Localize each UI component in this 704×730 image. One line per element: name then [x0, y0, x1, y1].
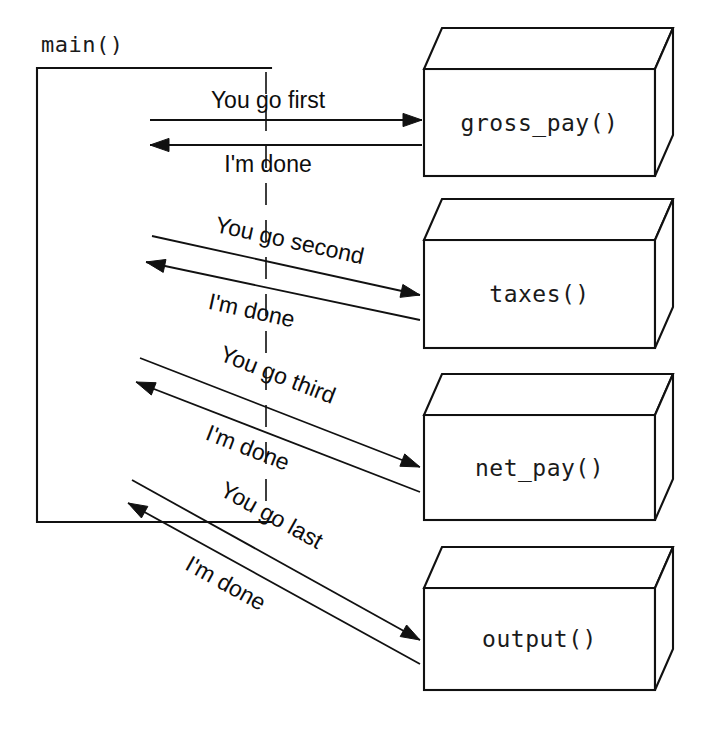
message-im-done-1[interactable]	[150, 138, 422, 151]
message-im-done-1-arrow-head-icon	[150, 138, 169, 151]
message-im-done-3[interactable]	[136, 382, 420, 492]
message-arrow-group	[128, 113, 422, 664]
box-net-pay[interactable]	[424, 374, 673, 520]
box-net-pay-top-face	[424, 374, 673, 415]
box-output-top-face	[424, 547, 673, 588]
box-taxes-label: taxes()	[489, 281, 589, 307]
message-you-go-last-label: You go last	[216, 476, 328, 554]
message-im-done-4-label: I'm done	[181, 550, 270, 615]
message-im-done-2-label: I'm done	[206, 288, 297, 332]
message-im-done-4-arrow-head-icon	[128, 503, 148, 518]
message-im-done-3-arrow-head-icon	[136, 382, 156, 395]
message-you-go-third-arrow-head-icon	[400, 454, 420, 467]
caller-label: main()	[41, 32, 123, 57]
message-you-go-second-label: You go second	[213, 211, 366, 269]
box-net-pay-label: net_pay()	[475, 455, 604, 482]
diagram-canvas: gross_pay()taxes()net_pay()output()main(…	[0, 0, 704, 730]
message-you-go-last-arrow-head-icon	[400, 625, 420, 640]
message-you-go-third-label: You go third	[216, 340, 339, 409]
message-im-done-2-arrow-head-icon	[146, 259, 166, 272]
box-gross-pay[interactable]	[424, 28, 673, 176]
box-output-label: output()	[482, 626, 597, 652]
message-you-go-first[interactable]	[150, 113, 422, 126]
message-you-go-second-arrow-head-icon	[400, 284, 420, 297]
box-taxes[interactable]	[424, 199, 673, 348]
message-im-done-1-label: I'm done	[224, 151, 312, 177]
box-output[interactable]	[424, 547, 673, 690]
message-you-go-first-arrow-head-icon	[403, 113, 422, 126]
message-you-go-first-label: You go first	[211, 87, 326, 113]
box-taxes-top-face	[424, 199, 673, 240]
box-gross-pay-top-face	[424, 28, 673, 69]
call-sequence-diagram: gross_pay()taxes()net_pay()output()main(…	[0, 0, 704, 730]
message-im-done-3-label: I'm done	[202, 420, 293, 476]
message-im-done-3-line	[136, 382, 420, 492]
box-gross-pay-label: gross_pay()	[461, 110, 619, 137]
